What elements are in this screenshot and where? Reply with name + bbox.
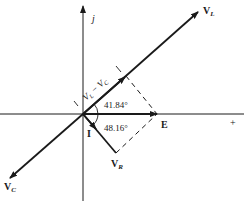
vl-minus-vc-label: VL − VC [81,75,111,103]
phasor-diagram: j + VL VC VR E I 41.84° 48.16° VL − VC [0,0,244,201]
e-label: E [161,119,168,130]
angle-upper-label: 41.84° [104,100,128,110]
i-label: I [87,128,91,139]
vc-label: VC [4,181,16,194]
dim-tick-end [116,66,121,72]
vr-label: VR [111,158,123,171]
angle-arc-lower [93,114,98,125]
j-axis-label: j [90,13,95,24]
vc-phasor [10,114,83,178]
svg-text:VL − VC: VL − VC [81,75,111,103]
plus-label: + [230,117,236,128]
dashed-line-upper [126,76,157,114]
angle-arc-upper [94,104,98,114]
dim-tick-start [74,101,78,106]
vl-label: VL [203,5,215,18]
angle-lower-label: 48.16° [104,123,128,133]
i-phasor [83,114,96,129]
dashed-line-lower [116,114,157,153]
